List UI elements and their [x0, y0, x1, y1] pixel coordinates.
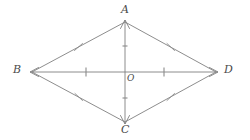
center-label-o: O [127, 74, 134, 83]
rhombus-diagram-canvas [0, 0, 250, 140]
tick-side-CD [167, 94, 175, 101]
vertex-label-c: C [121, 124, 129, 135]
tick-side-BC [75, 94, 83, 101]
vertex-label-d: D [224, 64, 233, 75]
vertex-label-a: A [121, 4, 129, 15]
tick-side-AB [75, 44, 83, 51]
geometry-figure-rhombus-abcd: A B C D O [0, 0, 250, 140]
tick-side-AD [167, 44, 175, 51]
vertex-label-b: B [13, 64, 21, 75]
